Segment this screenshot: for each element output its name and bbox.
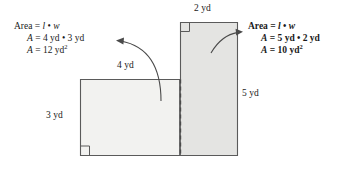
left-rectangle — [81, 80, 180, 156]
right-annotation-line-3: A = 10 yd2 — [248, 45, 320, 57]
right-length-symbol: l — [278, 21, 281, 31]
left-dot: • — [48, 21, 51, 31]
left-equals-1: = — [35, 21, 40, 31]
left-a-var-1: A — [27, 33, 33, 43]
left-annotation-line-1: Area = l • w — [14, 21, 84, 33]
geometry-diagram: 2 yd 4 yd 3 yd 5 yd Area = l • w A = 4 y… — [0, 0, 354, 174]
right-width-symbol: w — [289, 21, 295, 31]
left-a-value-2: = 12 yd — [35, 45, 64, 55]
left-a-value-1: = 4 yd • 3 yd — [35, 33, 84, 43]
left-width-symbol: w — [53, 21, 59, 31]
right-area-annotation: Area = l • w A = 5 yd • 2 yd A = 10 yd2 — [248, 21, 320, 57]
right-rectangle — [181, 23, 238, 156]
left-area-word: Area — [14, 21, 32, 31]
left-a-exponent: 2 — [64, 43, 67, 50]
right-callout-arrowhead-icon — [236, 29, 243, 36]
right-a-var-2: A — [261, 45, 267, 55]
left-callout-arrowhead-icon — [116, 37, 124, 44]
dimension-label-left-3yd: 3 yd — [46, 110, 63, 122]
dimension-label-top-4yd: 4 yd — [117, 60, 134, 72]
right-annotation-line-1: Area = l • w — [248, 21, 320, 33]
left-area-annotation: Area = l • w A = 4 yd • 3 yd A = 12 yd2 — [14, 21, 84, 57]
left-a-var-2: A — [27, 45, 33, 55]
dimension-label-top-2yd: 2 yd — [194, 3, 211, 15]
dimension-label-right-5yd: 5 yd — [242, 88, 259, 100]
right-a-exponent: 2 — [299, 43, 302, 50]
right-a-value-2: = 10 yd — [270, 45, 300, 55]
left-annotation-line-3: A = 12 yd2 — [14, 45, 84, 57]
right-area-word: Area — [248, 21, 268, 31]
right-dot: • — [283, 21, 286, 31]
left-length-symbol: l — [43, 21, 46, 31]
right-annotation-line-2: A = 5 yd • 2 yd — [248, 33, 320, 45]
right-a-value-1: = 5 yd • 2 yd — [270, 33, 320, 43]
right-a-var-1: A — [261, 33, 267, 43]
left-annotation-line-2: A = 4 yd • 3 yd — [14, 33, 84, 45]
right-equals-1: = — [270, 21, 275, 31]
